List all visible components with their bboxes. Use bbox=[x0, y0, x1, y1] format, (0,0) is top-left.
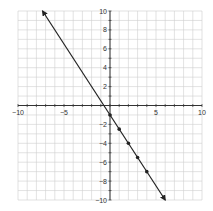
y-tick-label: 10 bbox=[99, 8, 107, 15]
y-tick-label: 6 bbox=[103, 45, 107, 52]
y-tick-label: −6 bbox=[99, 159, 107, 166]
data-point bbox=[117, 127, 121, 131]
x-tick-label: −10 bbox=[12, 109, 24, 116]
y-tick-label: −8 bbox=[99, 178, 107, 185]
x-tick-label: −5 bbox=[60, 109, 68, 116]
data-point bbox=[136, 156, 140, 160]
data-point bbox=[127, 142, 131, 146]
y-tick-label: −4 bbox=[99, 140, 107, 147]
x-tick-label: 5 bbox=[154, 109, 158, 116]
coordinate-plane: −10−5510108642−2−4−6−8−10 bbox=[0, 0, 213, 211]
data-point bbox=[108, 113, 112, 117]
x-tick-label: 10 bbox=[198, 109, 206, 116]
y-tick-label: 8 bbox=[103, 26, 107, 33]
y-tick-label: −2 bbox=[99, 121, 107, 128]
y-tick-label: 4 bbox=[103, 64, 107, 71]
y-tick-label: 2 bbox=[103, 83, 107, 90]
data-point bbox=[145, 170, 149, 174]
y-tick-label: −10 bbox=[95, 197, 107, 204]
